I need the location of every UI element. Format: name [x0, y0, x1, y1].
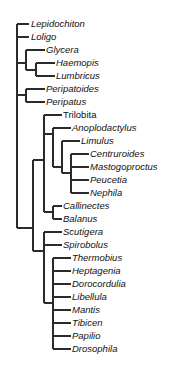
taxon-label-limulus: Limulus: [81, 135, 114, 146]
taxon-label-centruroides: Centruroides: [90, 148, 145, 159]
taxon-label-heptagenia: Heptagenia: [72, 265, 121, 276]
taxon-label-trilobita: Trilobita: [63, 109, 97, 120]
taxon-label-peripatus: Peripatus: [46, 96, 86, 107]
taxon-label-lumbricus: Lumbricus: [56, 70, 100, 81]
taxon-label-scutigera: Scutigera: [63, 226, 103, 237]
taxon-label-loligo: Loligo: [31, 31, 56, 42]
taxon-label-haemopis: Haemopis: [56, 57, 99, 68]
taxon-label-glycera: Glycera: [46, 44, 79, 55]
taxon-label-spirobolus: Spirobolus: [63, 239, 108, 250]
taxon-label-anoplodactylus: Anoplodactylus: [71, 122, 137, 133]
phylogenetic-tree: LepidochitonLoligoGlyceraHaemopisLumbric…: [0, 0, 181, 370]
taxon-label-drosophila: Drosophila: [72, 343, 117, 354]
cladogram-figure: LepidochitonLoligoGlyceraHaemopisLumbric…: [0, 0, 181, 370]
taxon-label-thermobius: Thermobius: [72, 252, 122, 263]
taxon-label-callinectes: Callinectes: [63, 200, 110, 211]
taxon-label-papilio: Papilio: [72, 330, 101, 341]
taxon-label-mantis: Mantis: [72, 304, 100, 315]
taxon-label-dorocordulia: Dorocordulia: [72, 278, 126, 289]
taxon-label-nephila: Nephila: [90, 187, 122, 198]
taxon-label-mastogoproctus: Mastogoproctus: [90, 161, 158, 172]
taxon-label-tibicen: Tibicen: [72, 317, 103, 328]
taxon-label-lepidochiton: Lepidochiton: [31, 18, 85, 29]
taxon-label-peripatoides: Peripatoides: [46, 83, 99, 94]
taxon-label-balanus: Balanus: [63, 213, 98, 224]
taxon-label-peucetia: Peucetia: [90, 174, 127, 185]
taxon-label-libellula: Libellula: [72, 291, 107, 302]
